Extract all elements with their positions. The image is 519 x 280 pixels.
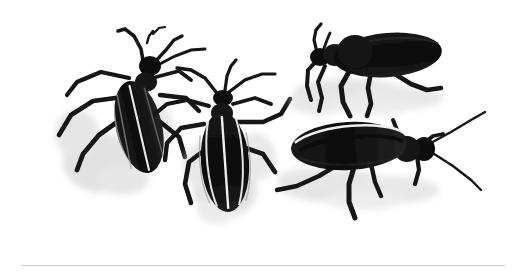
image-canvas: blister beetles — [0, 0, 519, 280]
figure-subject: blister beetles — [0, 0, 1, 1]
beetle-illustration — [19, 0, 505, 265]
beetle-illustration-svg — [19, 0, 505, 265]
figure-caption — [0, 0, 1, 1]
